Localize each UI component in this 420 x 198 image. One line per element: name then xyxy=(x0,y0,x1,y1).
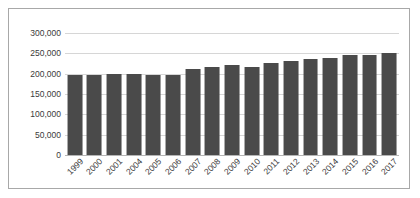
x-tick-label: 2009 xyxy=(223,157,242,176)
bar[interactable] xyxy=(225,65,240,155)
bar-slot xyxy=(203,33,223,155)
x-tick-label: 2006 xyxy=(164,157,183,176)
x-tick-label: 2004 xyxy=(124,157,143,176)
bar-slot xyxy=(85,33,105,155)
bar[interactable] xyxy=(67,75,82,155)
y-tick-label: 100,000 xyxy=(17,110,61,119)
bar[interactable] xyxy=(342,55,357,155)
bar-slot xyxy=(301,33,321,155)
x-tick-label: 1999 xyxy=(65,157,84,176)
plot-area xyxy=(65,33,399,155)
bar-slot xyxy=(261,33,281,155)
bar[interactable] xyxy=(283,61,298,155)
bar[interactable] xyxy=(303,59,318,155)
y-tick-label: 0 xyxy=(17,151,61,160)
y-tick-label: 50,000 xyxy=(17,130,61,139)
x-axis-tick-labels: 1999200020012004200520062007200820092010… xyxy=(65,155,399,197)
y-tick-label: 200,000 xyxy=(17,69,61,78)
bar-slot xyxy=(340,33,360,155)
bar[interactable] xyxy=(205,67,220,155)
bar[interactable] xyxy=(382,53,397,155)
bar[interactable] xyxy=(87,75,102,155)
bar-slot xyxy=(379,33,399,155)
x-tick-label: 2010 xyxy=(242,157,261,176)
y-tick-label: 300,000 xyxy=(17,29,61,38)
bar-slot xyxy=(144,33,164,155)
bar-slot xyxy=(183,33,203,155)
bar-slot xyxy=(222,33,242,155)
y-tick-label: 150,000 xyxy=(17,90,61,99)
bar[interactable] xyxy=(244,67,259,155)
bar[interactable] xyxy=(264,63,279,155)
y-tick-label: 250,000 xyxy=(17,49,61,58)
bar-series xyxy=(65,33,399,155)
bar-slot xyxy=(360,33,380,155)
bar-slot xyxy=(242,33,262,155)
bar-slot xyxy=(163,33,183,155)
chart-figure: 050,000100,000150,000200,000250,000300,0… xyxy=(0,0,420,198)
bar[interactable] xyxy=(107,74,122,155)
bar[interactable] xyxy=(185,69,200,155)
x-tick-label: 2001 xyxy=(105,157,124,176)
x-tick-label: 2015 xyxy=(340,157,359,176)
bar-slot xyxy=(104,33,124,155)
x-tick-label: 2007 xyxy=(183,157,202,176)
bar[interactable] xyxy=(323,58,338,155)
y-axis-tick-labels: 050,000100,000150,000200,000250,000300,0… xyxy=(17,33,61,155)
bar-slot xyxy=(65,33,85,155)
bar-slot xyxy=(320,33,340,155)
bar-slot xyxy=(124,33,144,155)
bar[interactable] xyxy=(362,55,377,155)
bar[interactable] xyxy=(126,74,141,155)
chart-frame: 050,000100,000150,000200,000250,000300,0… xyxy=(8,8,410,189)
bar[interactable] xyxy=(166,75,181,155)
bar[interactable] xyxy=(146,75,161,155)
x-tick-label: 2012 xyxy=(282,157,301,176)
bar-slot xyxy=(281,33,301,155)
